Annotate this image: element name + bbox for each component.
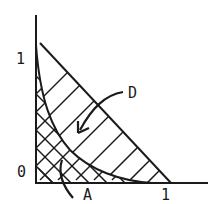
hyperbola-curve xyxy=(36,45,152,183)
x-axis-tick-label: 1 xyxy=(161,186,170,204)
region-d-label: D xyxy=(128,84,137,102)
origin-label: 0 xyxy=(17,163,26,181)
line-x-plus-y-equals-1 xyxy=(40,43,171,183)
diagram: 1 0 1 D A xyxy=(0,0,222,204)
y-axis-tick-label: 1 xyxy=(16,50,25,68)
region-a-label: A xyxy=(83,186,92,204)
